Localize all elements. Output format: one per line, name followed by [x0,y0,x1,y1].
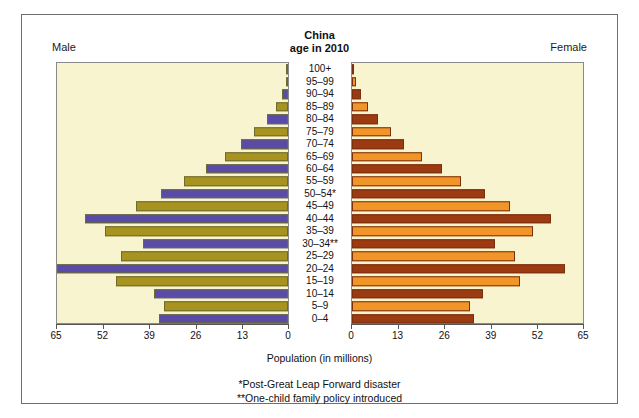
male-bar-row [57,250,288,262]
female-bar [352,227,533,236]
male-axis-tick [288,324,289,329]
male-bar [241,139,288,148]
age-group-label: 20–24 [289,262,351,273]
female-axis-tick [491,324,492,329]
female-bar [352,189,485,198]
male-bar-row [57,300,288,312]
age-group-label: 75–79 [289,125,351,136]
female-bar [352,164,442,173]
age-group-label: 70–74 [289,138,351,149]
male-bar [57,264,288,273]
male-bar-row [57,150,288,162]
age-group-row: 25–29 [289,249,351,261]
female-axis-tick [351,324,352,329]
female-bar-row [352,175,583,187]
age-group-row: 10–14 [289,286,351,298]
female-bar-row [352,163,583,175]
female-axis-tick-label: 65 [577,330,588,341]
age-group-label: 30–34** [289,237,351,248]
age-group-label: 80–84 [289,113,351,124]
male-bar [105,227,288,236]
age-group-row: 80–84 [289,112,351,124]
male-bar-row [57,188,288,200]
age-group-label-column: 100+95–9990–9485–8980–8475–7970–7465–696… [289,62,351,324]
chart-subtitle: age in 2010 [22,42,617,55]
male-bar-row [57,113,288,125]
male-bar-row [57,125,288,137]
male-x-axis: 65523926130 [56,324,289,346]
male-bar [143,239,288,248]
age-group-label: 45–49 [289,200,351,211]
male-bar [282,89,288,98]
female-bar-row [352,225,583,237]
footnote-two: **One-child family policy introduced [22,392,617,404]
male-bar-row [57,88,288,100]
female-axis-tick [444,324,445,329]
male-bar [254,127,288,136]
age-group-row: 85–89 [289,99,351,111]
female-axis-tick [537,324,538,329]
male-bar [136,202,288,211]
male-bar-row [57,275,288,287]
male-bar [161,189,288,198]
male-bar-row [57,138,288,150]
age-group-label: 90–94 [289,88,351,99]
male-bar-row [57,263,288,275]
male-axis-tick-label: 52 [97,330,108,341]
age-group-label: 40–44 [289,212,351,223]
male-bar-row [57,163,288,175]
female-bar [352,152,422,161]
female-bar-row [352,263,583,275]
female-bar [352,239,495,248]
male-bar [159,314,288,323]
female-bar-row [352,287,583,299]
female-axis-tick [398,324,399,329]
male-axis-tick [149,324,150,329]
pyramid-plot-area: 100+95–9990–9485–8980–8475–7970–7465–696… [56,62,584,324]
female-bar-row [352,213,583,225]
age-group-label: 55–59 [289,175,351,186]
male-bar-row [57,312,288,324]
age-group-label: 85–89 [289,100,351,111]
male-axis-tick-label: 65 [50,330,61,341]
female-bar [352,252,515,261]
female-bar-row [352,188,583,200]
female-axis-tick-label: 0 [348,330,354,341]
female-bar-row [352,238,583,250]
male-bar-row [57,225,288,237]
age-group-row: 60–64 [289,162,351,174]
female-bar-row [352,150,583,162]
age-group-row: 35–39 [289,224,351,236]
female-axis-line [351,324,584,325]
female-bar-row [352,138,583,150]
age-group-label: 100+ [289,63,351,74]
age-group-label: 50–54* [289,187,351,198]
male-bar [116,276,288,285]
female-axis-tick-label: 13 [392,330,403,341]
male-bar [154,289,288,298]
age-group-row: 75–79 [289,124,351,136]
male-bar [184,177,288,186]
age-group-row: 40–44 [289,212,351,224]
male-axis-tick [242,324,243,329]
age-group-row: 5–9 [289,299,351,311]
age-group-row: 70–74 [289,137,351,149]
female-bar-row [352,300,583,312]
female-bar [352,102,368,111]
age-group-row: 55–59 [289,174,351,186]
male-bar-row [57,100,288,112]
age-group-label: 25–29 [289,250,351,261]
male-bar [164,301,288,310]
age-group-row: 20–24 [289,262,351,274]
female-bar-row [352,75,583,87]
age-group-label: 5–9 [289,300,351,311]
female-axis-tick-label: 52 [532,330,543,341]
age-group-row: 0–4 [289,311,351,323]
male-axis-line [56,324,289,325]
age-group-label: 95–99 [289,75,351,86]
age-group-row: 65–69 [289,149,351,161]
male-bar [286,77,288,86]
male-axis-tick-label: 13 [237,330,248,341]
female-bar [352,89,361,98]
female-axis-tick-label: 26 [439,330,450,341]
